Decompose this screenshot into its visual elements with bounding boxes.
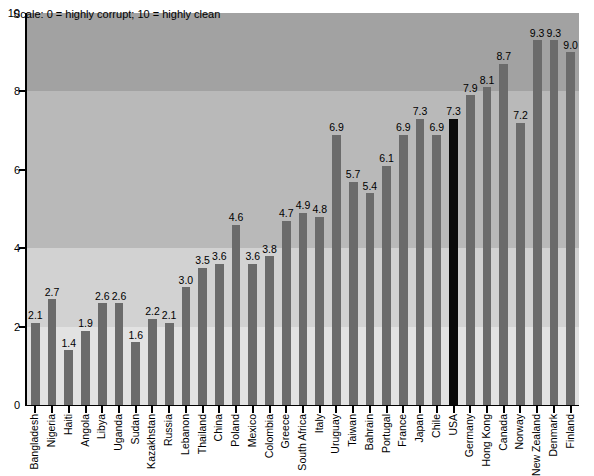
y-axis-labels: 0246810 — [0, 0, 22, 472]
bar[interactable] — [148, 319, 157, 405]
bar[interactable] — [64, 350, 73, 405]
x-axis-ticks — [27, 406, 579, 413]
bar[interactable] — [366, 193, 375, 405]
x-tick-mark — [352, 406, 354, 413]
bar[interactable] — [131, 342, 140, 405]
bar[interactable] — [248, 264, 257, 405]
category-label: Greece — [280, 414, 291, 448]
bar-column[interactable]: 1.9 — [81, 13, 90, 405]
bar-value-label: 2.6 — [112, 291, 127, 302]
bar-column[interactable]: 3.6 — [248, 13, 257, 405]
bar-column[interactable]: 3.6 — [215, 13, 224, 405]
bar[interactable] — [265, 256, 274, 405]
bar-column[interactable]: 6.9 — [332, 13, 341, 405]
bar[interactable] — [399, 135, 408, 405]
bar[interactable] — [31, 323, 40, 405]
bar-value-label: 6.9 — [396, 122, 411, 133]
bar-column[interactable]: 4.6 — [232, 13, 241, 405]
bar-column[interactable]: 4.7 — [282, 13, 291, 405]
x-tick-mark — [202, 406, 204, 413]
bar-column[interactable]: 3.8 — [265, 13, 274, 405]
bar-value-label: 2.6 — [95, 291, 110, 302]
bar[interactable] — [81, 331, 90, 405]
bar-column[interactable]: 2.1 — [165, 13, 174, 405]
bar-column[interactable]: 7.2 — [516, 13, 525, 405]
bar[interactable] — [533, 40, 542, 405]
bar-column[interactable]: 2.6 — [115, 13, 124, 405]
bar[interactable] — [315, 217, 324, 405]
bar-value-label: 4.9 — [296, 200, 311, 211]
bar[interactable] — [432, 135, 441, 405]
bar[interactable] — [332, 135, 341, 405]
bar-column[interactable]: 4.9 — [299, 13, 308, 405]
x-tick-mark — [51, 406, 53, 413]
bar-column[interactable]: 2.7 — [48, 13, 57, 405]
bar[interactable] — [232, 225, 241, 405]
bar[interactable] — [299, 213, 308, 405]
bar-value-label: 5.7 — [346, 169, 361, 180]
bar-column[interactable]: 7.3 — [416, 13, 425, 405]
bar-column[interactable]: 3.0 — [182, 13, 191, 405]
bar-column[interactable]: 9.3 — [533, 13, 542, 405]
bar-column[interactable]: 4.8 — [315, 13, 324, 405]
x-tick-mark — [218, 406, 220, 413]
bar[interactable] — [499, 64, 508, 405]
bar[interactable] — [349, 182, 358, 405]
bar[interactable] — [566, 52, 575, 405]
bar-column[interactable]: 3.5 — [198, 13, 207, 405]
bar-column[interactable]: 5.7 — [349, 13, 358, 405]
category-label: Chile — [431, 414, 442, 438]
bar[interactable] — [165, 323, 174, 405]
bar[interactable] — [516, 123, 525, 405]
bar-column[interactable]: 2.2 — [148, 13, 157, 405]
bar-column[interactable]: 1.4 — [64, 13, 73, 405]
bar-value-label: 7.3 — [446, 106, 461, 117]
bar-column[interactable]: 8.7 — [499, 13, 508, 405]
category-label: France — [397, 414, 408, 447]
x-tick-mark — [469, 406, 471, 413]
x-tick-mark — [486, 406, 488, 413]
category-label: South Africa — [297, 414, 308, 471]
bar[interactable] — [382, 166, 391, 405]
bar-value-label: 3.0 — [179, 275, 194, 286]
bar[interactable] — [466, 95, 475, 405]
x-tick-mark — [235, 406, 237, 413]
bar[interactable] — [215, 264, 224, 405]
bar-column[interactable]: 5.4 — [366, 13, 375, 405]
bar[interactable] — [182, 287, 191, 405]
bar-column[interactable]: 6.1 — [382, 13, 391, 405]
bar-column[interactable]: 9.0 — [566, 13, 575, 405]
x-tick-mark — [436, 406, 438, 413]
bar[interactable] — [483, 87, 492, 405]
y-tick-mark — [19, 326, 27, 328]
bar-column[interactable]: 7.9 — [466, 13, 475, 405]
category-label: Poland — [230, 414, 241, 447]
category-label: Mexico — [247, 414, 258, 447]
bar[interactable] — [48, 299, 57, 405]
bar-value-label: 7.2 — [513, 110, 528, 121]
bar[interactable] — [98, 303, 107, 405]
bar-value-label: 1.4 — [62, 338, 77, 349]
x-tick-mark — [269, 406, 271, 413]
bar-column[interactable]: 1.6 — [131, 13, 140, 405]
x-tick-mark — [503, 406, 505, 413]
bar-column[interactable]: 9.3 — [550, 13, 559, 405]
bar[interactable] — [282, 221, 291, 405]
bar-column[interactable]: 2.6 — [98, 13, 107, 405]
bar[interactable] — [416, 119, 425, 405]
category-label: Uruguay — [330, 414, 341, 454]
bar[interactable] — [115, 303, 124, 405]
bar-column[interactable]: 6.9 — [399, 13, 408, 405]
category-label: Portugal — [381, 414, 392, 453]
bar[interactable] — [198, 268, 207, 405]
bar-column[interactable]: 8.1 — [483, 13, 492, 405]
bar[interactable] — [449, 119, 458, 405]
category-label: Taiwan — [347, 414, 358, 447]
bar-column[interactable]: 2.1 — [31, 13, 40, 405]
y-tick-label: 0 — [14, 400, 20, 411]
bar[interactable] — [550, 40, 559, 405]
bar-column[interactable]: 7.3 — [449, 13, 458, 405]
bar-value-label: 1.6 — [128, 330, 143, 341]
bar-column[interactable]: 6.9 — [432, 13, 441, 405]
bar-value-label: 2.7 — [45, 287, 60, 298]
